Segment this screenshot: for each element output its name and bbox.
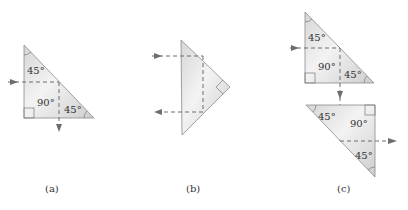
angle-label-top-c-upper: 45° [308,32,326,43]
panel-b: (b) [152,40,230,194]
panel-c: 45° 90° 45° 45° 90° 45° (c) [290,12,397,194]
arrow-out-icon-c [388,138,397,144]
angle-label-top-a: 45° [27,65,45,76]
prism-diagram: 45° 90° 45° (a) (b) 45° 90° 45° [0,0,408,210]
angle-label-left-c-lower: 45° [318,111,336,122]
arrow-out-icon-a [56,124,62,132]
arrow-in-icon-a [10,79,18,85]
arrow-in-icon-c [291,45,299,51]
angle-label-right-a: 45° [64,104,82,115]
arrow-out-icon-b [154,109,162,115]
angle-label-bottom-c-lower: 45° [355,150,373,161]
caption-b: (b) [186,183,200,194]
arrow-down-icon-c [337,91,343,99]
angle-label-90-c-lower: 90° [350,118,368,129]
angle-label-90-c-upper: 90° [318,61,336,72]
caption-a: (a) [45,183,59,194]
arrow-in-icon-b [154,53,162,59]
prism-b [181,40,230,135]
angle-label-right-c-upper: 45° [344,69,362,80]
panel-a: 45° 90° 45° (a) [8,45,94,194]
angle-label-90-a: 90° [37,97,55,108]
caption-c: (c) [337,183,351,194]
